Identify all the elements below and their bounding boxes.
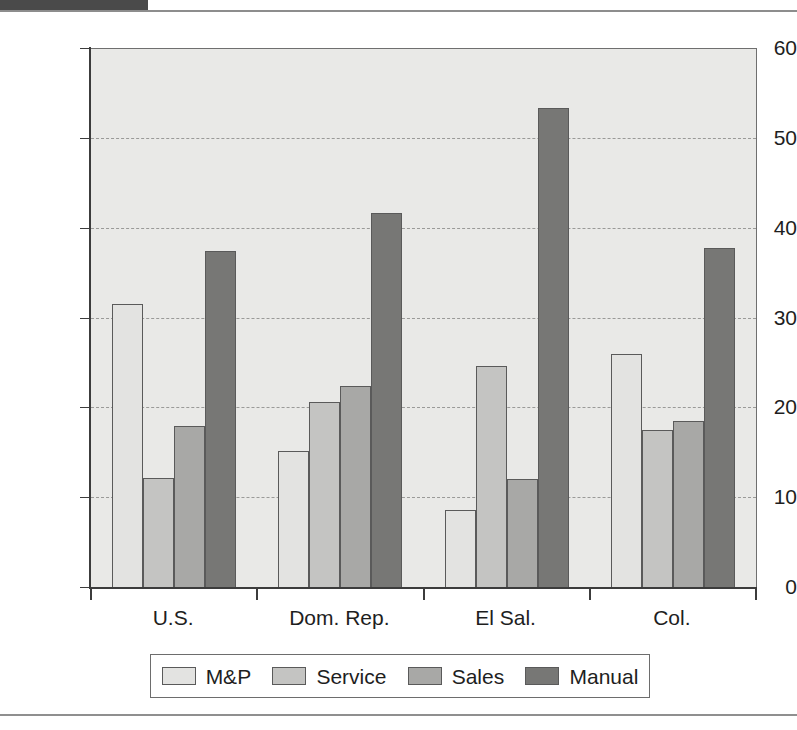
x-tick-2	[423, 589, 425, 600]
y-tick-label-60: 60	[725, 37, 797, 58]
bar-us-manual	[205, 251, 236, 588]
bar-col-manual	[704, 248, 735, 588]
bar-chart-figure: 0102030405060 U.S.Dom. Rep.El Sal.Col. M…	[0, 14, 797, 714]
gridline-40	[91, 228, 756, 229]
x-tick-label-domrep: Dom. Rep.	[259, 606, 419, 630]
scan-footer-rule	[0, 714, 797, 716]
bar-elsal-manual	[538, 108, 569, 588]
x-tick-4	[755, 589, 757, 600]
y-tick-label-10: 10	[725, 486, 797, 507]
y-tick-60	[80, 48, 90, 49]
y-tick-label-0: 0	[725, 576, 797, 597]
x-tick-1	[256, 589, 258, 600]
x-tick-3	[589, 589, 591, 600]
legend-label: Sales	[452, 666, 505, 687]
bar-domrep-sales	[340, 386, 371, 588]
y-tick-label-20: 20	[725, 396, 797, 417]
bar-us-mp	[112, 304, 143, 588]
gridline-20	[91, 407, 756, 408]
bar-domrep-service	[309, 402, 340, 588]
y-tick-10	[80, 497, 90, 498]
legend-item-manual[interactable]: Manual	[525, 666, 638, 687]
y-tick-label-30: 30	[725, 307, 797, 328]
y-tick-40	[80, 228, 90, 229]
gridline-50	[91, 138, 756, 139]
bar-col-sales	[673, 421, 704, 588]
legend-label: Service	[316, 666, 386, 687]
legend-swatch-icon	[272, 667, 306, 685]
legend-swatch-icon	[525, 667, 559, 685]
y-tick-label-50: 50	[725, 127, 797, 148]
gridline-30	[91, 318, 756, 319]
bar-domrep-manual	[371, 213, 402, 588]
x-tick-0	[90, 589, 92, 600]
plot-area	[90, 48, 757, 589]
bar-elsal-sales	[507, 479, 538, 588]
legend-item-mp[interactable]: M&P	[162, 666, 252, 687]
legend-swatch-icon	[408, 667, 442, 685]
legend-label: Manual	[569, 666, 638, 687]
chart-legend: M&PServiceSalesManual	[150, 654, 650, 698]
legend-swatch-icon	[162, 667, 196, 685]
y-tick-0	[80, 587, 90, 588]
bar-us-sales	[174, 426, 205, 588]
bar-us-service	[143, 478, 174, 588]
x-tick-label-col: Col.	[592, 606, 752, 630]
y-tick-50	[80, 138, 90, 139]
legend-label: M&P	[206, 666, 252, 687]
x-tick-label-elsal: El Sal.	[426, 606, 586, 630]
x-tick-label-us: U.S.	[93, 606, 253, 630]
y-tick-label-40: 40	[725, 217, 797, 238]
legend-item-service[interactable]: Service	[272, 666, 386, 687]
bar-col-mp	[611, 354, 642, 588]
legend-item-sales[interactable]: Sales	[408, 666, 505, 687]
bar-elsal-mp	[445, 510, 476, 588]
bar-domrep-mp	[278, 451, 309, 588]
bar-elsal-service	[476, 366, 507, 588]
bar-col-service	[642, 430, 673, 588]
y-tick-20	[80, 407, 90, 408]
y-tick-30	[80, 318, 90, 319]
scan-header-rule	[0, 10, 797, 12]
